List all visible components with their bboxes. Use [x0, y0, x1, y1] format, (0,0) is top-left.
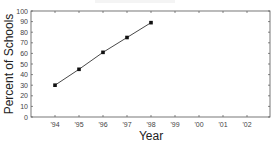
y-tick-label: 100 — [16, 8, 28, 15]
data-point-marker — [125, 36, 129, 40]
x-axis-title: Year — [139, 129, 163, 142]
x-tick-label: '97 — [122, 121, 131, 128]
y-axis: 0102030405060708090100 — [16, 8, 270, 121]
x-tick-label: '98 — [146, 121, 155, 128]
x-tick-label: '02 — [242, 121, 251, 128]
y-tick-label: 90 — [20, 18, 28, 25]
data-point-marker — [149, 21, 153, 25]
title-fragment — [95, 0, 175, 3]
x-tick-label: '96 — [98, 121, 107, 128]
data-point-marker — [77, 68, 81, 72]
line-chart: 0102030405060708090100 '94'95'96'97'98'9… — [0, 0, 271, 142]
x-tick-label: '99 — [170, 121, 179, 128]
y-tick-label: 0 — [24, 114, 28, 121]
y-tick-label: 70 — [20, 39, 28, 46]
y-tick-label: 30 — [20, 82, 28, 89]
x-tick-label: '01 — [218, 121, 227, 128]
x-tick-label: '00 — [194, 121, 203, 128]
x-tick-label: '95 — [74, 121, 83, 128]
y-tick-label: 50 — [20, 61, 28, 68]
data-point-marker — [53, 83, 57, 87]
y-tick-label: 60 — [20, 50, 28, 57]
data-point-marker — [101, 51, 105, 55]
y-tick-label: 10 — [20, 103, 28, 110]
y-axis-title: Percent of Schools — [2, 14, 16, 115]
x-tick-label: '94 — [50, 121, 59, 128]
y-tick-label: 20 — [20, 92, 28, 99]
plot-frame — [31, 11, 270, 117]
y-tick-label: 80 — [20, 29, 28, 36]
y-tick-label: 40 — [20, 71, 28, 78]
data-series — [53, 21, 153, 87]
